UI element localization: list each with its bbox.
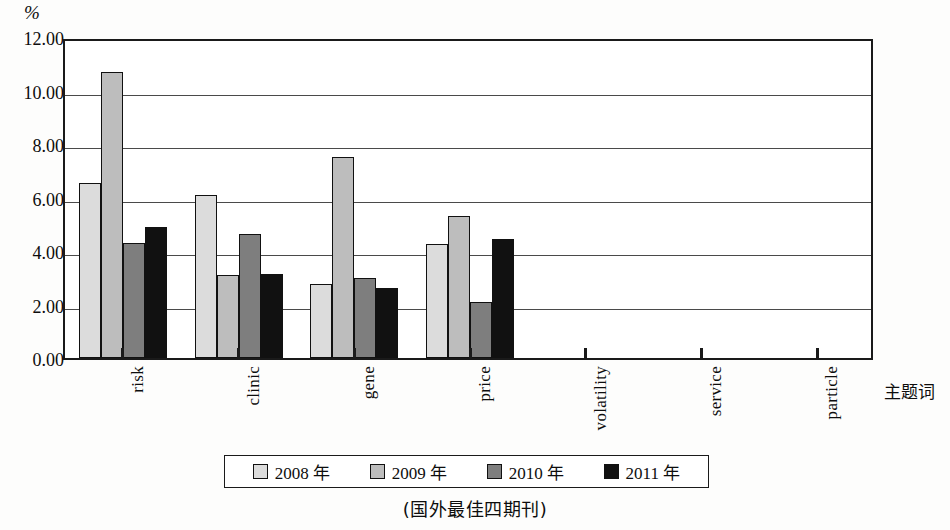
plot-area	[63, 39, 873, 360]
x-axis-tick-mark	[469, 348, 472, 358]
x-axis-category-label: price	[475, 366, 495, 401]
x-axis-category-label: volatility	[591, 366, 611, 430]
x-axis-category-label: gene	[359, 366, 379, 399]
bar	[448, 216, 470, 358]
y-axis-tick-label: 10.00	[4, 84, 64, 102]
chart-figure: % 0.002.004.006.008.0010.0012.00 riskcli…	[0, 0, 950, 530]
legend-label: 2010 年	[509, 459, 564, 484]
bar	[332, 157, 354, 358]
x-axis-tick-mark	[121, 348, 124, 358]
bar	[492, 239, 514, 358]
bar	[217, 275, 239, 358]
legend-item: 2008 年	[253, 459, 330, 484]
legend-label: 2008 年	[275, 459, 330, 484]
legend-swatch-icon	[604, 464, 619, 479]
x-axis-tick-mark	[237, 348, 240, 358]
x-axis-tick-mark	[700, 348, 703, 358]
legend-item: 2009 年	[370, 459, 447, 484]
bar	[261, 274, 283, 358]
y-axis-tick-label: 2.00	[4, 298, 64, 316]
y-axis-tick-label: 8.00	[4, 137, 64, 155]
figure-caption: (国外最佳四期刊)	[0, 495, 950, 521]
y-axis-unit-label: %	[24, 2, 40, 24]
legend-item: 2010 年	[487, 459, 564, 484]
x-axis-tick-mark	[584, 348, 587, 358]
y-axis-tick-label: 4.00	[4, 244, 64, 262]
legend-swatch-icon	[487, 464, 502, 479]
bar	[101, 72, 123, 358]
legend-item: 2011 年	[604, 459, 681, 484]
x-axis-title: 主题词	[884, 378, 935, 403]
bar	[310, 284, 332, 358]
bar	[145, 227, 167, 358]
x-axis-category-label: service	[706, 366, 726, 416]
bar	[123, 243, 145, 358]
bar	[354, 278, 376, 358]
y-axis-tick-label: 12.00	[4, 30, 64, 48]
bar	[79, 183, 101, 358]
x-axis-tick-mark	[816, 348, 819, 358]
bar	[470, 302, 492, 358]
x-axis-category-label: risk	[128, 366, 148, 393]
x-axis-category-label: clinic	[244, 366, 264, 406]
x-axis-category-label: particle	[822, 366, 842, 419]
bar-groups	[65, 41, 871, 358]
legend-label: 2009 年	[392, 459, 447, 484]
legend-swatch-icon	[253, 464, 268, 479]
bar	[426, 244, 448, 358]
x-axis-tick-mark	[353, 348, 356, 358]
bar	[376, 288, 398, 358]
y-axis-tick-label: 0.00	[4, 351, 64, 369]
bar	[239, 234, 261, 358]
y-axis-tick-label: 6.00	[4, 191, 64, 209]
bar	[195, 195, 217, 358]
chart-legend: 2008 年2009 年2010 年2011 年	[224, 455, 709, 488]
legend-swatch-icon	[370, 464, 385, 479]
legend-label: 2011 年	[626, 459, 681, 484]
